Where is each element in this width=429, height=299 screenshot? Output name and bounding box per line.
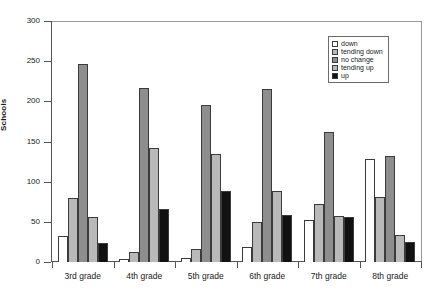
bar (129, 252, 139, 262)
bar (242, 247, 252, 262)
x-tick (237, 262, 238, 268)
bar (191, 249, 201, 262)
bar (334, 216, 344, 262)
bar-group (52, 21, 114, 262)
y-tick: 0 (44, 262, 51, 263)
legend-item-label: tending down (341, 48, 383, 55)
y-tick-label: 50 (31, 218, 40, 226)
bar-group (114, 21, 176, 262)
bar (201, 105, 211, 262)
legend-item-label: no change (341, 56, 374, 63)
legend-swatch-icon (332, 65, 338, 71)
legend-item-label: tending up (341, 64, 374, 71)
x-tick (298, 262, 299, 268)
bar (139, 88, 149, 262)
legend-item: up (332, 72, 383, 79)
bar (181, 258, 191, 262)
legend-item: tending down (332, 48, 383, 55)
bar (282, 215, 292, 262)
bar (262, 89, 272, 262)
bar (221, 191, 231, 262)
x-axis-labels: 3rd grade4th grade5th grade6th grade7th … (52, 272, 421, 281)
bar (324, 132, 334, 262)
bar (159, 209, 169, 262)
x-tick-label: 5th grade (175, 272, 237, 281)
bar (385, 156, 395, 262)
y-axis-title: Schools (0, 98, 8, 131)
bar-group (175, 21, 237, 262)
x-tick (360, 262, 361, 268)
y-tick: 150 (44, 142, 51, 143)
bar (211, 154, 221, 262)
bar (78, 64, 88, 262)
y-tick-label: 150 (27, 138, 40, 146)
legend-item: tending up (332, 64, 383, 71)
y-tick-label: 200 (27, 97, 40, 105)
legend-swatch-icon (332, 57, 338, 63)
x-tick-label: 8th grade (360, 272, 422, 281)
bar (395, 235, 405, 262)
y-tick-label: 0 (36, 258, 40, 266)
x-tick (421, 262, 422, 268)
bar (314, 204, 324, 262)
bar (58, 236, 68, 262)
bar (344, 217, 354, 262)
y-tick: 300 (44, 21, 51, 22)
x-tick (175, 262, 176, 268)
bar (375, 197, 385, 262)
bar (405, 242, 415, 262)
legend-swatch-icon (332, 73, 338, 79)
legend-item: down (332, 40, 383, 47)
y-tick: 100 (44, 182, 51, 183)
x-tick (114, 262, 115, 268)
legend-item-label: up (341, 72, 349, 79)
legend-item: no change (332, 56, 383, 63)
bar (119, 259, 129, 262)
x-tick (52, 262, 53, 268)
x-tick-label: 7th grade (298, 272, 360, 281)
y-tick-label: 250 (27, 57, 40, 65)
y-tick: 200 (44, 101, 51, 102)
legend-swatch-icon (332, 41, 338, 47)
bar (88, 217, 98, 262)
bar (68, 198, 78, 262)
y-tick: 50 (44, 222, 51, 223)
y-tick-label: 100 (27, 178, 40, 186)
y-tick: 250 (44, 61, 51, 62)
bar (252, 222, 262, 262)
y-tick-label: 300 (27, 17, 40, 25)
chart-legend: downtending downno changetending upup (328, 36, 389, 83)
bar (98, 243, 108, 262)
legend-swatch-icon (332, 49, 338, 55)
bar-chart: Schools 300250200150100500 3rd grade4th … (0, 0, 429, 299)
x-tick-label: 4th grade (114, 272, 176, 281)
bar (149, 148, 159, 262)
bar-group (237, 21, 299, 262)
bar (304, 220, 314, 262)
x-tick-label: 6th grade (237, 272, 299, 281)
x-tick-label: 3rd grade (52, 272, 114, 281)
legend-item-label: down (341, 40, 358, 47)
bar (365, 159, 375, 262)
bar (272, 191, 282, 262)
